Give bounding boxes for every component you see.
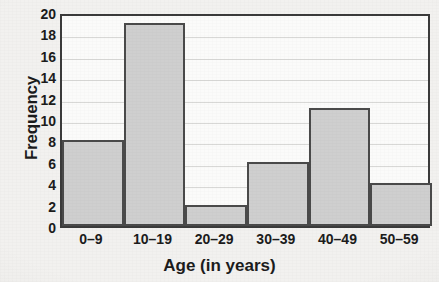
y-tick-label: 16: [22, 50, 56, 64]
x-tick-label: 30–39: [245, 231, 307, 248]
x-tick-label: 10–19: [122, 231, 184, 248]
histogram-bar: [370, 183, 432, 226]
x-axis-title: Age (in years): [0, 256, 439, 276]
histogram-figure: Frequency 02468101214161820 0–910–1920–2…: [0, 0, 439, 282]
y-tick-label: 18: [22, 28, 56, 42]
y-tick-label: 4: [22, 178, 56, 192]
chart-title-clipped: [0, 0, 439, 7]
histogram-bar: [309, 108, 371, 226]
x-tick-label: 40–49: [307, 231, 369, 248]
x-tick-label: 0–9: [60, 231, 122, 248]
x-axis-tick-labels: 0–910–1920–2930–3940–4950–59: [60, 231, 430, 251]
y-tick-label: 6: [22, 157, 56, 171]
y-tick-label: 2: [22, 200, 56, 214]
x-tick-label: 50–59: [368, 231, 430, 248]
histogram-bar: [185, 205, 247, 226]
y-tick-label: 20: [22, 7, 56, 21]
y-tick-label: 8: [22, 135, 56, 149]
histogram-bar: [247, 162, 309, 226]
y-tick-label: 12: [22, 93, 56, 107]
x-tick-label: 20–29: [183, 231, 245, 248]
bar-series: [62, 16, 428, 226]
plot-area: [60, 14, 430, 228]
histogram-bar: [62, 140, 124, 226]
y-tick-label: 0: [22, 221, 56, 235]
y-axis-tick-labels: 02468101214161820: [22, 14, 56, 228]
y-tick-label: 10: [22, 114, 56, 128]
histogram-bar: [124, 23, 186, 226]
y-tick-label: 14: [22, 71, 56, 85]
